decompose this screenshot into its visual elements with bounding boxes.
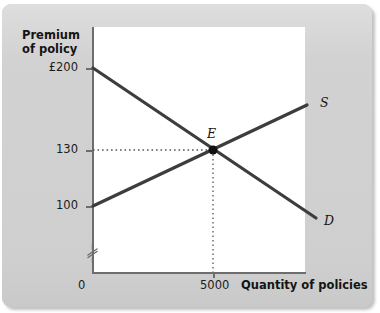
supply-demand-figure: £200 130 100 0 5000 Premium of policy Qu… [0, 0, 380, 313]
supply-curve-label: S [320, 97, 329, 110]
equilibrium-label: E [207, 128, 216, 141]
equilibrium-point-marker [209, 146, 218, 155]
curves-layer [0, 0, 380, 313]
demand-curve [93, 68, 316, 218]
demand-curve-label: D [324, 215, 334, 228]
